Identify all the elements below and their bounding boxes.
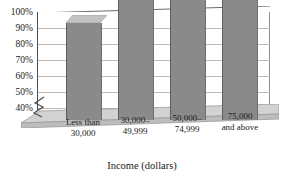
bar-front-face [66,23,102,120]
category-label-4-line-2: and above [200,122,280,133]
y-axis-tick-labels: 100% 90% 80% 70% 60% 50% 40% [0,0,33,120]
bar-front-face [222,0,258,120]
bar-top-face [66,15,100,23]
y-tick-90: 90% [16,24,33,34]
axis-break-icon [31,96,49,118]
bar-front-face [118,0,154,120]
bar-75000-and-above [222,12,256,120]
y-tick-60: 60% [16,72,33,82]
y-tick-100: 100% [11,8,33,18]
bar-30000-49999 [118,12,152,120]
y-tick-70: 70% [16,56,33,66]
category-label-4: 75,000 and above [200,111,280,133]
y-tick-80: 80% [16,40,33,50]
bar-front-face [170,0,206,120]
category-label-4-line-1: 75,000 [200,111,280,122]
bar-less-than-30000 [66,12,100,120]
bar-50000-74999 [170,12,204,120]
x-axis-title: Income (dollars) [0,160,284,171]
bar-chart: 100% 90% 80% 70% 60% 50% 40% [0,0,284,185]
